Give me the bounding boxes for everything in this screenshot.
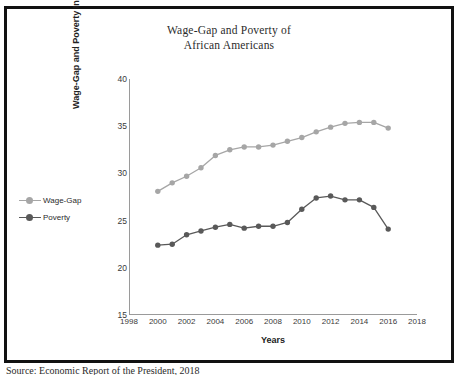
data-point	[371, 120, 376, 125]
data-point	[314, 129, 319, 134]
data-point	[155, 189, 160, 194]
y-axis-tick-35: 35	[105, 121, 127, 131]
data-point	[227, 147, 232, 152]
series-poverty	[155, 193, 391, 247]
data-point	[213, 225, 218, 230]
x-axis-tick-labels: 1998200020022004200620082010201220142016…	[129, 317, 417, 331]
data-point	[328, 193, 333, 198]
data-point	[184, 232, 189, 237]
data-point	[342, 197, 347, 202]
data-point	[242, 225, 247, 230]
y-axis-title: Wage-Gap and Poverty Index	[71, 0, 81, 109]
data-point	[198, 228, 203, 233]
figure-frame: Wage-Gap and Poverty of African American…	[4, 6, 454, 363]
data-point	[299, 207, 304, 212]
data-point	[342, 121, 347, 126]
y-axis-tick-30: 30	[105, 168, 127, 178]
data-point	[184, 174, 189, 179]
data-point	[314, 195, 319, 200]
data-point	[155, 242, 160, 247]
series-line	[158, 196, 388, 245]
y-axis-tick-40: 40	[105, 74, 127, 84]
chart-svg	[129, 79, 417, 315]
data-point	[242, 144, 247, 149]
x-axis-title: Years	[129, 335, 417, 345]
data-point	[170, 180, 175, 185]
legend-marker-icon	[19, 213, 41, 223]
series-wage-gap	[155, 120, 391, 194]
data-point	[270, 142, 275, 147]
data-point	[227, 222, 232, 227]
y-axis-tick-25: 25	[105, 216, 127, 226]
data-point	[386, 125, 391, 130]
data-point	[213, 153, 218, 158]
data-point	[299, 135, 304, 140]
x-axis-tick-2018: 2018	[397, 317, 437, 326]
data-point	[285, 220, 290, 225]
y-axis-tick-20: 20	[105, 263, 127, 273]
figure-screenshot: Wage-Gap and Poverty of African American…	[0, 0, 460, 375]
data-point	[256, 144, 261, 149]
data-point	[371, 205, 376, 210]
legend-marker-icon	[19, 196, 41, 206]
legend-item-label: Poverty	[43, 213, 70, 222]
data-point	[170, 242, 175, 247]
series-line	[158, 122, 388, 191]
data-point	[256, 224, 261, 229]
data-point	[198, 165, 203, 170]
legend-item-poverty[interactable]: Poverty	[19, 209, 105, 226]
plot-area	[129, 79, 417, 315]
chart-title-line-1: Wage-Gap and Poverty of	[167, 24, 291, 36]
data-point	[357, 120, 362, 125]
y-axis-tick-labels: 152025303540	[103, 79, 127, 315]
data-point	[357, 197, 362, 202]
legend-item-wage-gap[interactable]: Wage-Gap	[19, 192, 105, 209]
legend-item-label: Wage-Gap	[43, 196, 81, 205]
chart-legend: Wage-GapPoverty	[19, 192, 105, 226]
source-note: Source: Economic Report of the President…	[6, 365, 446, 375]
data-point	[328, 124, 333, 129]
data-point	[386, 226, 391, 231]
data-point	[270, 224, 275, 229]
data-point	[285, 139, 290, 144]
